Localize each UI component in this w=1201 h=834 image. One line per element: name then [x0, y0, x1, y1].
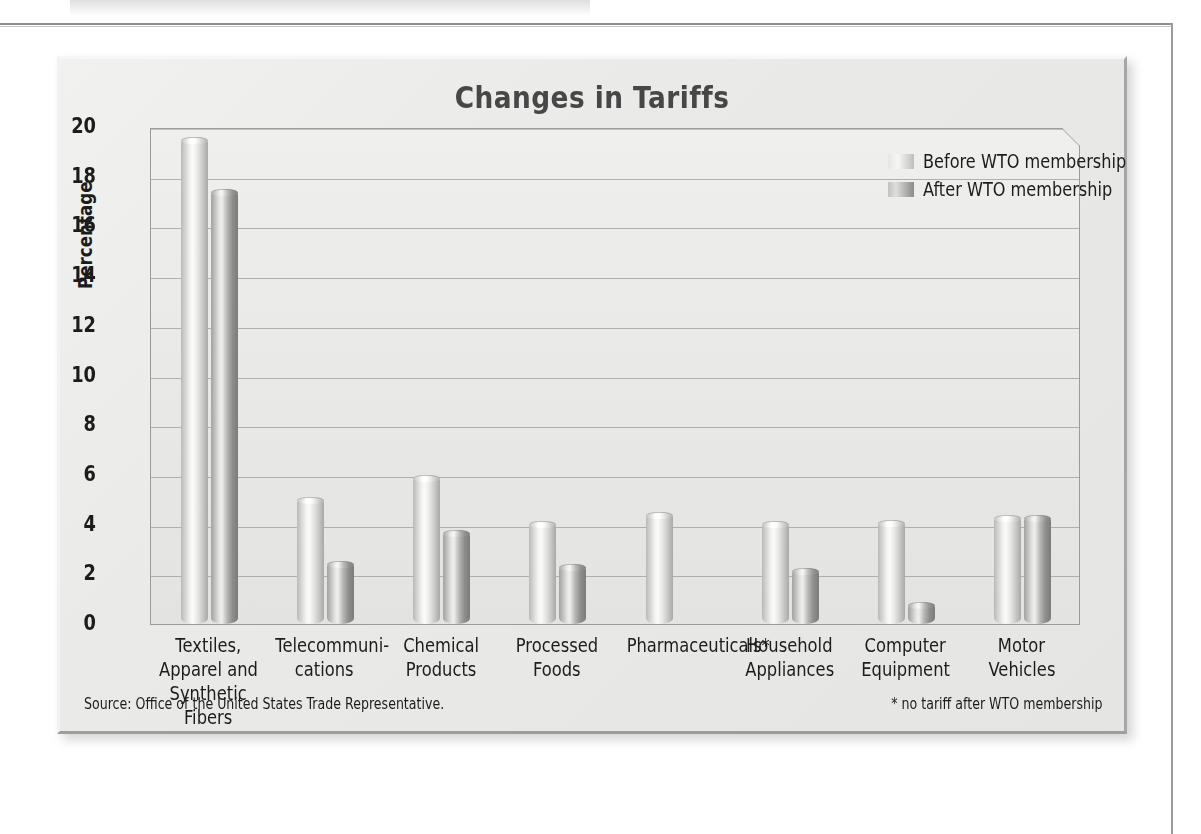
bar [181, 137, 208, 624]
gridline [151, 527, 1079, 528]
gridline [151, 328, 1079, 329]
legend-swatch-after-icon [888, 182, 914, 197]
gridline [151, 228, 1079, 229]
gridline [151, 378, 1079, 379]
page-top-rule [0, 23, 1172, 25]
chart-title: Changes in Tariffs [124, 80, 1060, 115]
bar [443, 530, 470, 624]
y-axis-tick-label: 8 [57, 412, 96, 436]
bar [792, 568, 819, 624]
y-axis-tick-label: 14 [57, 263, 96, 287]
legend-swatch-before-icon [888, 154, 914, 169]
y-axis-tick-label: 2 [57, 561, 96, 585]
x-axis-category-label: ProcessedFoods [499, 633, 615, 681]
y-axis-tick-label: 10 [57, 363, 96, 387]
y-axis-tick-label: 16 [57, 213, 96, 237]
page-edge-smudge [70, 0, 590, 16]
x-axis-category-label: Telecommuni-cations [266, 633, 382, 681]
x-axis-category-label: MotorVehicles [964, 633, 1080, 681]
y-axis-tick-label: 18 [57, 164, 96, 188]
bar [878, 520, 905, 624]
legend-label-after: After WTO membership [923, 178, 1112, 200]
gridline [151, 129, 1079, 130]
bar [413, 475, 440, 624]
bar [908, 602, 935, 624]
x-axis-category-label: HouseholdAppliances [731, 633, 847, 681]
x-axis-category-label: ChemicalProducts [383, 633, 499, 681]
legend-label-before: Before WTO membership [923, 150, 1126, 172]
x-axis-category-label: ComputerEquipment [848, 633, 964, 681]
bar [994, 515, 1021, 624]
chart-panel: Changes in Tariffs Percentage 0246810121… [57, 56, 1127, 734]
page-right-rule [1171, 23, 1173, 834]
gridline [151, 576, 1079, 577]
legend-item-before: Before WTO membership [888, 147, 1162, 175]
gridline [151, 278, 1079, 279]
legend-item-after: After WTO membership [888, 175, 1162, 203]
y-axis-tick-label: 6 [57, 462, 96, 486]
source-note: Source: Office of the United States Trad… [84, 695, 444, 713]
y-axis-tick-label: 4 [57, 512, 96, 536]
bar [646, 512, 673, 624]
chart-legend: Before WTO membership After WTO membersh… [888, 147, 1162, 203]
y-axis-tick-label: 20 [57, 114, 96, 138]
bar [762, 521, 789, 624]
bar [327, 561, 354, 624]
gridline [151, 427, 1079, 428]
bar [529, 521, 556, 624]
bar [559, 564, 586, 624]
footnote: * no tariff after WTO membership [891, 695, 1102, 713]
y-axis-tick-label: 0 [57, 611, 96, 635]
bar [1024, 515, 1051, 624]
y-axis-tick-label: 12 [57, 313, 96, 337]
bar [211, 189, 238, 624]
bar [297, 497, 324, 624]
gridline [151, 477, 1079, 478]
x-axis-category-label: Pharmaceuticals* [615, 633, 731, 657]
page-top-rule-secondary [0, 26, 1172, 27]
chart-panel-surface: Changes in Tariffs Percentage 0246810121… [60, 59, 1124, 731]
x-axis-category-label: Textiles,Apparel andSynthetic Fibers [150, 633, 266, 729]
